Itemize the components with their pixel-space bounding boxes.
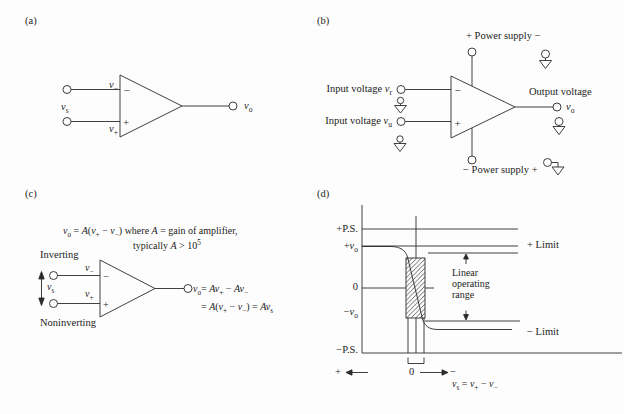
figure-linework: − + − + (0, 0, 624, 414)
panel-d-ytick-pps: +P.S. (324, 223, 358, 235)
panel-a-vs-label: vs (61, 101, 69, 113)
panel-c-gain-equation-line1: vo = A(v+ − v−) where A = gain of amplif… (63, 225, 238, 237)
vs-double-arrow (39, 272, 44, 306)
inverting-sign: − (124, 84, 130, 96)
terminal-circle (63, 86, 71, 94)
terminal-circle (397, 118, 405, 126)
panel-c-circuit: − + (39, 260, 192, 317)
up-arrow-icon (464, 254, 469, 264)
panel-d-xaxis-zero: 0 (409, 366, 414, 378)
panel-a-circuit: − + (63, 75, 237, 137)
panel-c-inverting-label: Inverting (40, 249, 79, 261)
left-arrow-icon (346, 370, 368, 375)
panel-b-circuit: − + (394, 48, 565, 175)
supply-terminal-circle (468, 156, 476, 164)
panel-b-bottom-supply-label: − Power supply + (463, 164, 538, 176)
noninverting-sign: + (455, 117, 461, 129)
panel-b-top-supply-label: + Power supply − (466, 30, 541, 42)
terminal-circle (63, 118, 71, 126)
panel-c-noninverting-label: Noninverting (40, 317, 96, 329)
terminal-circle (50, 300, 58, 308)
ground-icon (553, 118, 565, 135)
terminal-circle (397, 86, 405, 94)
panel-d-ytick-nps: −P.S. (324, 344, 358, 356)
panel-b-output-label: Output voltage (529, 86, 592, 98)
zero-bracket (408, 358, 424, 364)
panel-c-v-minus-label: v− (85, 262, 94, 274)
noninverting-sign: + (103, 299, 109, 310)
panel-d-xaxis-plus: + (335, 366, 341, 378)
ground-icon (395, 97, 407, 113)
panel-b-tag: (b) (317, 15, 329, 26)
down-arrow-icon (464, 311, 469, 321)
panel-c-tag: (c) (25, 188, 37, 199)
panel-a-v-minus-label: v− (96, 79, 118, 91)
panel-d-ytick-nvo: −vo (324, 306, 358, 318)
linear-region-hatch (406, 258, 425, 318)
ground-icon (544, 159, 565, 176)
inverting-sign: − (455, 84, 461, 96)
right-arrow-icon (420, 370, 448, 375)
panel-d-xaxis-equation: vs = v+ − v− (452, 378, 498, 390)
panel-d-linear-range-label-line3: range (452, 289, 474, 301)
panel-d-graph (346, 205, 622, 375)
panel-c-vs-label: vs (47, 281, 54, 293)
ground-icon (540, 50, 552, 69)
panel-d-linear-range-label-line2: operating (452, 278, 490, 290)
panel-d-minus-limit-label: − Limit (527, 326, 559, 338)
terminal-circle (229, 102, 237, 110)
panel-c-v-plus-label: v+ (85, 288, 94, 300)
ground-icon (394, 136, 406, 152)
panel-b-vo-label: vo (566, 101, 574, 113)
figure-opamp-overview: − + − + (0, 0, 624, 414)
panel-c-output-equation-line2: = A(v+ − v−) = Avs (201, 301, 273, 313)
terminal-circle (553, 103, 561, 111)
panel-b-input2-label: Input voltage vu (310, 115, 392, 127)
panel-d-plus-limit-label: + Limit (527, 239, 559, 251)
terminal-circle (184, 285, 192, 293)
inverting-sign: − (104, 271, 110, 282)
panel-c-output-equation-line1: vo= Av+ − Av− (193, 283, 248, 295)
panel-d-xaxis-minus: − (450, 366, 456, 378)
panel-d-ytick-zero: 0 (324, 281, 358, 293)
panel-d-ytick-pvo: +vo (324, 240, 358, 252)
noninverting-sign: + (123, 116, 129, 128)
panel-b-input1-label: Input voltage vr (310, 83, 392, 95)
supply-terminal-circle (468, 48, 476, 56)
panel-c-gain-equation-line2: typically A > 105 (133, 240, 201, 252)
panel-a-v-plus-label: v+ (96, 123, 118, 135)
panel-d-tag: (d) (317, 188, 329, 199)
terminal-circle (50, 272, 58, 280)
panel-d-linear-range-label-line1: Linear (452, 267, 478, 279)
panel-a-tag: (a) (25, 15, 37, 26)
panel-a-vo-label: vo (244, 100, 252, 112)
